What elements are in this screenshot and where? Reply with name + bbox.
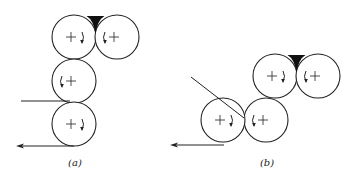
panel-b-label: (b) bbox=[260, 157, 274, 168]
panel-a bbox=[16, 15, 139, 149]
roller-a-middle bbox=[52, 59, 96, 103]
roller-a-top-left bbox=[52, 15, 96, 59]
roller-b-bottom-right bbox=[244, 98, 288, 142]
roller-b-top-right bbox=[296, 54, 340, 98]
panel-a-label: (a) bbox=[68, 157, 82, 168]
panel-b bbox=[170, 54, 340, 148]
roller-a-bottom bbox=[52, 102, 96, 146]
roller-a-top-right bbox=[95, 15, 139, 59]
roller-b-top-left bbox=[253, 54, 297, 98]
roller-diagram: (a) (b) bbox=[0, 0, 355, 177]
roller-b-bottom-left bbox=[201, 98, 245, 142]
